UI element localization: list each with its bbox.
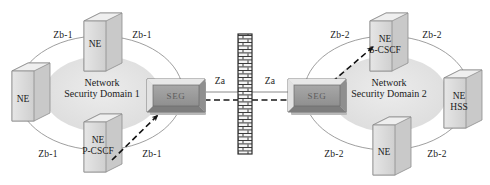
node-ne-left-west-face [12,71,34,121]
node-ne-left-bottom [84,114,122,172]
node-ne-right-bottom [373,117,411,175]
node-ne-right-top-face [370,21,392,71]
gateway-seg-right-face [294,85,340,106]
gateway-seg-left-bevel-top [147,79,205,85]
gateway-seg-left [147,79,206,115]
node-ne-left-top-face [84,21,106,71]
gateway-seg-right-bevel-bottom [288,106,346,112]
node-ne-left-west [12,63,50,121]
node-ne-right-top [370,13,408,71]
gateway-seg-right-bevel-top [288,79,346,85]
gateway-seg-left-bevel-bottom [147,106,205,112]
network-security-domain-diagram: Network Security Domain 1 Network Securi… [0,0,490,185]
node-ne-right-east-face [444,78,466,128]
gateway-seg-right [288,79,347,115]
firewall-brick-wall [238,34,252,154]
diagram-canvas [0,0,490,185]
gateway-seg-left-face [153,85,199,106]
node-ne-left-bottom-face [84,122,106,172]
node-ne-right-east [444,70,482,128]
node-ne-left-top [84,13,122,71]
node-ne-right-bottom-face [373,125,395,175]
